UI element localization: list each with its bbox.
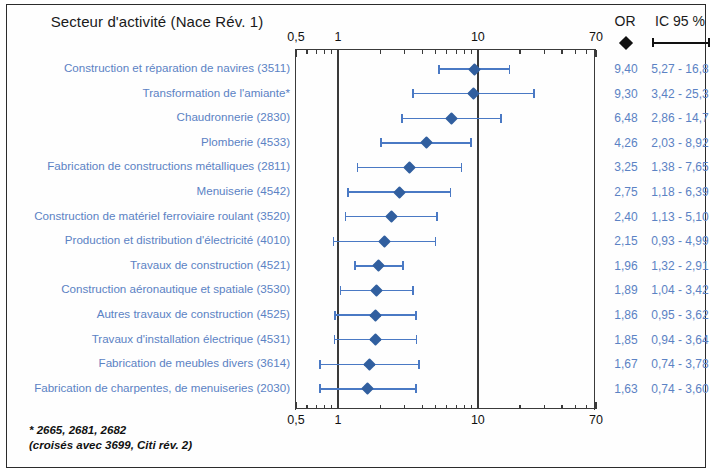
forest-plot-area: 0,50,51110107070: [295, 49, 595, 410]
axis-minor-tick: [324, 50, 325, 54]
ci-upper-cap: [436, 212, 438, 221]
ci-lower-cap: [345, 212, 347, 221]
axis-minor-tick: [331, 405, 332, 409]
footnote-line-2: (croisés avec 3699, Citi rév. 2): [29, 438, 192, 453]
axis-tick-label: 70: [576, 30, 616, 44]
axis-minor-tick: [561, 405, 562, 409]
odds-ratio-value: 1,89: [605, 283, 647, 297]
ci-upper-cap: [509, 65, 511, 74]
confidence-interval-value: 1,38 - 7,65: [643, 160, 715, 174]
odds-ratio-marker: [468, 63, 481, 76]
confidence-interval-value: 0,74 - 3,60: [643, 382, 715, 396]
confidence-interval-value: 1,18 - 6,39: [643, 185, 715, 199]
axis-minor-tick: [422, 405, 423, 409]
ci-lower-cap: [319, 360, 321, 369]
confidence-interval-value: 0,95 - 3,62: [643, 308, 715, 322]
axis-minor-tick: [456, 405, 457, 409]
row-label: Menuiserie (4542): [10, 184, 290, 197]
ci-lower-cap: [401, 114, 403, 123]
odds-ratio-value: 4,26: [605, 136, 647, 150]
confidence-interval-value: 0,94 - 3,64: [643, 333, 715, 347]
row-label: Travaux d'installation électrique (4531): [10, 332, 290, 345]
odds-ratio-marker: [385, 210, 398, 223]
odds-ratio-marker: [378, 235, 391, 248]
odds-ratio-marker: [373, 259, 386, 272]
axis-minor-tick: [471, 405, 472, 409]
odds-ratio-value: 1,96: [605, 259, 647, 273]
axis-tick-label: 0,5: [276, 30, 316, 44]
axis-minor-tick: [519, 50, 520, 54]
axis-minor-tick: [575, 50, 576, 54]
row-label: Fabrication de constructions métalliques…: [10, 159, 290, 172]
ci-lower-cap: [438, 65, 440, 74]
odds-ratio-marker: [445, 112, 458, 125]
odds-ratio-marker: [369, 333, 382, 346]
odds-ratio-marker: [420, 136, 433, 149]
row-label: Construction et réparation de navires (3…: [10, 61, 290, 74]
axis-major-tick: [595, 50, 596, 57]
axis-minor-tick: [331, 50, 332, 54]
ci-upper-cap: [402, 261, 404, 270]
axis-minor-tick: [380, 50, 381, 54]
row-label: Construction aéronautique et spatiale (3…: [10, 282, 290, 295]
row-label-column: Construction et réparation de navires (3…: [7, 5, 290, 469]
row-label: Chaudronnerie (2830): [10, 110, 290, 123]
axis-minor-tick: [471, 50, 472, 54]
odds-ratio-value: 3,25: [605, 160, 647, 174]
odds-ratio-marker: [361, 382, 374, 395]
odds-ratio-value: 9,40: [605, 62, 647, 76]
figure-frame: Secteur d'activité (Nace Rév. 1) OR IC 9…: [6, 4, 706, 468]
odds-ratio-value: 1,85: [605, 333, 647, 347]
odds-ratio-value: 1,63: [605, 382, 647, 396]
row-label: Production et distribution d'électricité…: [10, 233, 290, 246]
confidence-interval-value: 1,32 - 2,91: [643, 259, 715, 273]
ci-lower-cap: [340, 286, 342, 295]
confidence-interval-value: 5,27 - 16,8: [643, 62, 715, 76]
ci-lower-cap: [357, 163, 359, 172]
row-label: Autres travaux de construction (4525): [10, 307, 290, 320]
row-label: Fabrication de meubles divers (3614): [10, 356, 290, 369]
axis-tick-label: 1: [318, 30, 358, 44]
ci-upper-cap: [450, 188, 452, 197]
ci-lower-cap: [380, 138, 382, 147]
row-label: Transformation de l'amiante*: [10, 86, 290, 99]
ci-lower-cap: [347, 188, 349, 197]
axis-minor-tick: [456, 50, 457, 54]
ci-lower-cap: [319, 384, 321, 393]
axis-tick-label: 0,5: [276, 413, 316, 427]
axis-tick-label: 70: [576, 413, 616, 427]
confidence-interval-bar-icon: [652, 42, 710, 44]
axis-major-tick: [595, 402, 596, 409]
confidence-interval-value: 3,42 - 25,3: [643, 87, 715, 101]
reference-line: [337, 49, 338, 408]
ci-upper-cap: [500, 114, 502, 123]
odds-ratio-value: 9,30: [605, 87, 647, 101]
ci-upper-cap: [461, 163, 463, 172]
row-label: Construction de matériel ferroviaire rou…: [10, 209, 290, 222]
odds-ratio-marker: [403, 161, 416, 174]
axis-minor-tick: [435, 50, 436, 54]
axis-minor-tick: [464, 50, 465, 54]
axis-minor-tick: [544, 50, 545, 54]
ci-upper-cap: [470, 138, 472, 147]
ci-lower-cap: [412, 89, 414, 98]
axis-minor-tick: [316, 405, 317, 409]
ci-upper-cap: [533, 89, 535, 98]
row-label: Fabrication de charpentes, de menuiserie…: [10, 381, 290, 394]
axis-minor-tick: [404, 405, 405, 409]
confidence-interval-value: 2,86 - 14,7: [643, 111, 715, 125]
odds-ratio-marker: [370, 284, 383, 297]
ci-upper-cap: [435, 237, 437, 246]
black-diamond-icon: [619, 36, 633, 50]
row-label: Travaux de construction (4521): [10, 258, 290, 271]
axis-minor-tick: [561, 50, 562, 54]
odds-ratio-value: 2,15: [605, 234, 647, 248]
row-label: Plomberie (4533): [10, 135, 290, 148]
axis-minor-tick: [435, 405, 436, 409]
confidence-interval-value: 2,03 - 8,92: [643, 136, 715, 150]
axis-minor-tick: [446, 405, 447, 409]
odds-ratio-value: 1,67: [605, 357, 647, 371]
axis-minor-tick: [324, 405, 325, 409]
odds-ratio-value: 2,40: [605, 210, 647, 224]
axis-minor-tick: [586, 50, 587, 54]
